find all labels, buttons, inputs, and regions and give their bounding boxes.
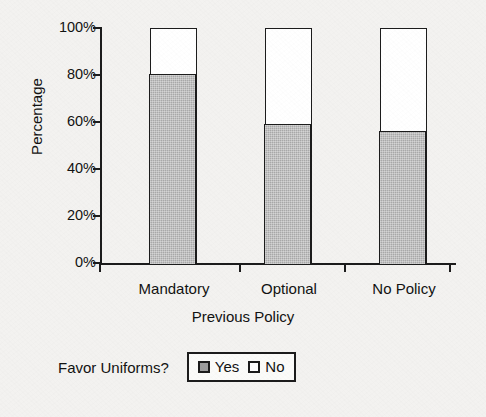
y-tick-label-60: 60%: [44, 114, 96, 128]
legend-swatch-yes-icon: [198, 361, 210, 373]
legend-swatch-no-icon: [248, 361, 260, 373]
chart-figure: Percentage 100% 80% 60% 40% 20% 0%: [0, 0, 486, 417]
y-axis-tick-80: [93, 74, 101, 76]
y-tick-label-0: 0%: [44, 255, 96, 269]
bar-segment-yes-optional[interactable]: [264, 124, 311, 265]
bar-segment-yes-mandatory[interactable]: [149, 74, 196, 264]
bar-no-policy[interactable]: [380, 28, 427, 264]
y-tick-label-20: 20%: [44, 208, 96, 222]
y-axis-tick-20: [93, 215, 101, 217]
y-tick-label-80: 80%: [44, 67, 96, 81]
bar-optional[interactable]: [265, 28, 312, 264]
y-tick-label-100: 100%: [44, 20, 96, 34]
x-axis-title: Previous Policy: [0, 308, 486, 325]
y-axis-tick-100: [93, 27, 101, 29]
plot-area: [100, 28, 454, 264]
legend-entry-no[interactable]: No: [248, 358, 284, 375]
x-axis-tick-start: [99, 264, 101, 272]
y-axis-tick-60: [93, 121, 101, 123]
legend-label-no: No: [265, 358, 284, 375]
y-tick-label-40: 40%: [44, 161, 96, 175]
x-axis-tick-3: [449, 264, 451, 272]
y-axis-tick-labels: 100% 80% 60% 40% 20% 0%: [38, 0, 96, 300]
legend-box: Yes No: [187, 352, 296, 382]
y-axis-tick-40: [93, 168, 101, 170]
x-tick-label-optional: Optional: [224, 280, 354, 297]
bar-segment-yes-no-policy[interactable]: [379, 131, 426, 265]
x-tick-label-mandatory: Mandatory: [109, 280, 239, 297]
bar-mandatory[interactable]: [150, 28, 197, 264]
legend: Favor Uniforms? Yes No: [58, 352, 296, 382]
legend-label-yes: Yes: [215, 358, 239, 375]
x-axis-tick-1: [239, 264, 241, 272]
y-axis-line: [100, 27, 102, 265]
legend-entry-yes[interactable]: Yes: [198, 358, 239, 375]
legend-title: Favor Uniforms?: [58, 359, 169, 376]
x-axis-tick-2: [344, 264, 346, 272]
x-tick-label-no-policy: No Policy: [339, 280, 469, 297]
